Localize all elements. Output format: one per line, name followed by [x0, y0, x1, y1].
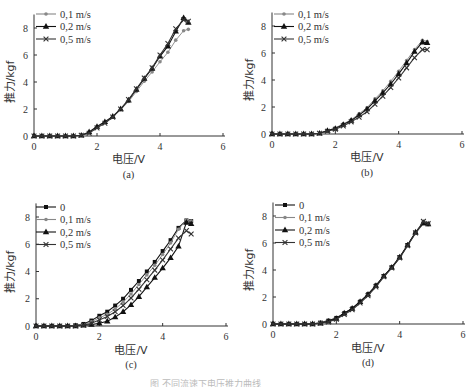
dot-marker-icon	[283, 216, 287, 220]
x-marker-icon	[137, 287, 142, 292]
x-marker-icon	[152, 268, 157, 273]
legend-label: 0,1 m/s	[60, 214, 91, 225]
square-marker-icon	[129, 288, 133, 292]
series-0-1-m-s	[32, 28, 190, 138]
legend-label: 0,2 m/s	[298, 21, 329, 32]
legend-label: 0,1 m/s	[60, 9, 91, 20]
triangle-marker-icon	[281, 23, 287, 29]
x-marker-icon	[396, 76, 401, 81]
legend-label: 0,2 m/s	[60, 227, 91, 238]
x-tick-label: 6	[461, 329, 466, 340]
y-axis-label: 推力/kgf	[242, 57, 256, 101]
y-tick-label: 2	[23, 104, 28, 115]
x-tick-label: 4	[396, 139, 401, 150]
legend-item: 0,5 m/s	[274, 34, 329, 45]
legend-item: 0,2 m/s	[36, 21, 91, 32]
x-marker-icon	[144, 277, 149, 282]
dot-marker-icon	[282, 12, 286, 16]
legend-item: 0	[275, 200, 304, 211]
dot-marker-icon	[166, 51, 170, 55]
y-tick-label: 0	[23, 131, 28, 142]
triangle-marker-icon	[43, 229, 49, 235]
dot-marker-icon	[187, 28, 191, 32]
x-tick-label: 4	[397, 329, 402, 340]
series-0-2-m-s	[31, 14, 192, 138]
series-0-1-m-s	[34, 218, 193, 328]
y-tick-label: 6	[25, 239, 30, 250]
triangle-marker-icon	[175, 243, 181, 249]
y-tick-label: 8	[262, 211, 267, 222]
y-tick-label: 4	[25, 266, 30, 277]
series-0-2-m-s	[33, 219, 195, 328]
legend-item: 0,2 m/s	[275, 225, 330, 236]
legend-item: 0,2 m/s	[36, 227, 91, 238]
subplot-label: (b)	[361, 167, 374, 179]
x-tick-label: 2	[334, 329, 339, 340]
x-axis-label: 电压/V	[351, 342, 385, 355]
x-tick-label: 6	[221, 141, 226, 152]
y-tick-label: 4	[261, 75, 266, 86]
dot-marker-icon	[177, 227, 181, 231]
x-tick-label: 2	[97, 331, 102, 342]
legend-item: 0,5 m/s	[36, 34, 91, 45]
y-tick-label: 6	[261, 48, 266, 59]
x-tick-label: 0	[32, 141, 37, 152]
legend-label: 0,2 m/s	[60, 21, 91, 32]
x-marker-icon	[184, 228, 189, 233]
legend-item: 0,5 m/s	[36, 239, 91, 250]
x-tick-label: 0	[271, 329, 276, 340]
chart-panel-a: 024602468电压/V推力/kgf(a)0,1 m/s0,2 m/s0,5 …	[3, 9, 226, 182]
x-marker-icon	[189, 232, 194, 237]
y-tick-label: 8	[25, 212, 30, 223]
legend-label: 0,1 m/s	[299, 212, 330, 223]
dot-marker-icon	[161, 253, 165, 257]
x-tick-label: 6	[460, 139, 465, 150]
y-tick-label: 2	[261, 102, 266, 113]
x-marker-icon	[129, 296, 134, 301]
figure-canvas: 024602468电压/V推力/kgf(a)0,1 m/s0,2 m/s0,5 …	[0, 0, 467, 387]
x-tick-label: 4	[160, 331, 165, 342]
x-marker-icon	[160, 258, 165, 263]
dot-marker-icon	[44, 218, 48, 222]
x-axis-label: 电压/V	[114, 344, 148, 357]
legend-item: 0,1 m/s	[36, 214, 91, 225]
triangle-marker-icon	[282, 227, 288, 233]
y-tick-label: 6	[23, 50, 28, 61]
y-tick-label: 6	[262, 238, 267, 249]
y-tick-label: 8	[261, 21, 266, 32]
y-axis-label: 推力/kgf	[242, 247, 256, 291]
legend-item: 0,1 m/s	[36, 9, 91, 20]
dot-marker-icon	[137, 283, 141, 287]
legend-item: 0	[36, 202, 65, 213]
legend-item: 0,2 m/s	[274, 21, 329, 32]
y-tick-label: 0	[25, 321, 30, 332]
chart-panel-d: 024602468电压/V推力/kgf(d)00,1 m/s0,2 m/s0,5…	[242, 200, 466, 370]
y-tick-label: 0	[261, 129, 266, 140]
figure-caption: 图 不同流速下电压推力曲线	[150, 377, 320, 387]
dot-marker-icon	[153, 264, 157, 268]
y-tick-label: 0	[262, 319, 267, 330]
dot-marker-icon	[182, 29, 186, 33]
dot-marker-icon	[44, 12, 48, 16]
y-tick-label: 8	[23, 23, 28, 34]
triangle-marker-icon	[419, 39, 425, 45]
triangle-marker-icon	[112, 314, 118, 320]
square-marker-icon	[113, 304, 117, 308]
y-axis-label: 推力/kgf	[3, 249, 17, 293]
x-axis-label: 电压/V	[112, 153, 146, 166]
series-0-5-m-s	[271, 219, 431, 326]
square-marker-icon	[283, 203, 287, 207]
x-tick-label: 0	[270, 139, 275, 150]
legend-label: 0,2 m/s	[299, 225, 330, 236]
y-tick-label: 2	[25, 293, 30, 304]
x-marker-icon	[412, 55, 417, 60]
legend-item: 0,1 m/s	[274, 9, 329, 20]
legend-item: 0,1 m/s	[275, 212, 330, 223]
x-marker-icon	[168, 247, 173, 252]
subplot-label: (c)	[125, 359, 137, 371]
x-tick-label: 0	[34, 331, 39, 342]
legend-label: 0,1 m/s	[298, 9, 329, 20]
dot-marker-icon	[121, 300, 125, 304]
chart-panel-c: 024602468电压/V推力/kgf(c)00,1 m/s0,2 m/s0,5…	[3, 202, 229, 372]
legend-label: 0,5 m/s	[60, 239, 91, 250]
